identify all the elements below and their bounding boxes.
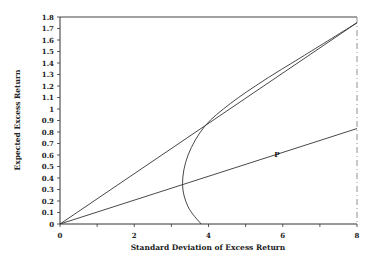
series-layer: P [60, 23, 357, 224]
y-tick-label: 1.3 [42, 70, 54, 79]
x-tick-label: 2 [132, 231, 137, 240]
point-p-label: P [274, 150, 280, 159]
chart: 00.10.20.30.40.50.60.70.80.911.11.21.31.… [0, 0, 374, 265]
y-tick-label: 0.6 [42, 151, 54, 160]
axes: 00.10.20.30.40.50.60.70.80.911.11.21.31.… [42, 13, 360, 241]
x-tick-label: 6 [280, 231, 285, 240]
y-tick-label: 0.2 [42, 197, 54, 206]
y-tick-label: 1.5 [42, 47, 54, 56]
y-tick-label: 1.4 [42, 59, 54, 68]
y-tick-label: 1.6 [42, 36, 54, 45]
y-tick-label: 0.8 [42, 128, 54, 137]
y-tick-label: 0.5 [42, 162, 54, 171]
y-tick-label: 1.8 [42, 13, 54, 22]
series-line-0 [60, 23, 357, 224]
y-tick-label: 0 [49, 220, 54, 229]
series-line-1 [60, 129, 357, 224]
x-tick-label: 0 [58, 231, 63, 240]
y-tick-label: 0.1 [42, 208, 54, 217]
y-tick-label: 1.7 [42, 24, 54, 33]
x-tick-label: 8 [355, 231, 360, 240]
y-tick-label: 1.1 [42, 93, 54, 102]
y-tick-label: 0.7 [42, 139, 54, 148]
y-tick-label: 0.4 [42, 174, 54, 183]
y-tick-label: 0.9 [42, 116, 54, 125]
y-tick-label: 1 [49, 105, 54, 114]
y-tick-label: 0.3 [42, 185, 54, 194]
y-axis-title: Expected Excess Return [13, 69, 22, 170]
x-axis-title: Standard Deviation of Excess Return [131, 243, 286, 252]
x-tick-label: 4 [206, 231, 211, 240]
y-tick-label: 1.2 [42, 82, 54, 91]
